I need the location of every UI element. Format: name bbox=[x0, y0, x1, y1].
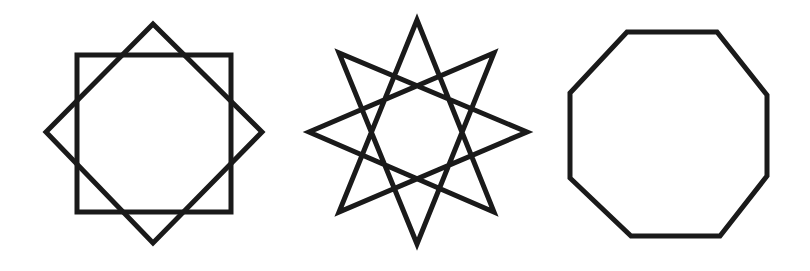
regular-octagon: regular octagon bbox=[570, 32, 767, 236]
eight-point-star bbox=[309, 20, 527, 244]
figure-canvas: Eight-sided figures octagram {8/2} (two … bbox=[0, 0, 810, 271]
octagon-outline bbox=[570, 32, 767, 236]
octagram-star-8-3: octagram {8/3} star bbox=[309, 20, 527, 244]
shapes-figure: octagram {8/2} (two overlapping squares)… bbox=[0, 0, 810, 271]
octagram-two-squares: octagram {8/2} (two overlapping squares) bbox=[46, 24, 262, 243]
